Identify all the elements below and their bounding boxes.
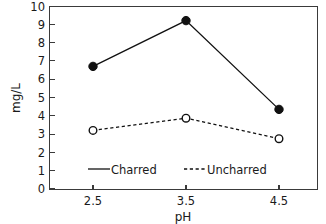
series-charred-line [93,21,279,110]
y-axis-ticks [50,7,55,190]
x-tick-label-1: 3.5 [177,194,195,208]
y-tick-label-10: 10 [30,0,45,14]
y-tick-label-2: 2 [38,146,45,160]
y-tick-label-5: 5 [38,91,45,105]
data-point-charred-1 [182,16,190,24]
y-tick-label-4: 4 [38,109,45,123]
series-uncharred [89,114,283,142]
legend-label-charred: Charred [111,163,157,177]
legend-item-charred: Charred [88,163,157,177]
x-axis-title: pH [175,210,192,224]
data-point-charred-0 [89,62,97,70]
y-tick-label-7: 7 [38,54,45,68]
x-axis-tick-labels: 2.5 3.5 4.5 [84,194,288,208]
series-charred [89,16,283,113]
x-tick-label-2: 4.5 [270,194,288,208]
data-point-charred-2 [275,105,283,113]
data-point-uncharred-1 [182,114,190,122]
y-tick-label-9: 9 [38,18,45,32]
plot-frame [50,7,318,190]
x-axis-ticks [93,185,279,190]
chart-figure: 0 1 2 3 4 5 6 7 8 9 10 2.5 3.5 4.5 pH mg… [0,0,326,224]
data-point-uncharred-0 [89,127,97,135]
chart-legend: Charred Uncharred [88,163,267,177]
y-tick-label-3: 3 [38,127,45,141]
y-axis-title: mg/L [9,83,23,113]
y-tick-label-1: 1 [38,164,45,178]
y-tick-label-0: 0 [38,182,45,196]
data-point-uncharred-2 [275,135,283,143]
line-chart: 0 1 2 3 4 5 6 7 8 9 10 2.5 3.5 4.5 pH mg… [0,0,326,224]
y-axis-tick-labels: 0 1 2 3 4 5 6 7 8 9 10 [30,0,45,196]
legend-label-uncharred: Uncharred [207,163,267,177]
legend-item-uncharred: Uncharred [184,163,267,177]
y-tick-label-8: 8 [38,36,45,50]
x-tick-label-0: 2.5 [84,194,102,208]
y-tick-label-6: 6 [38,72,45,86]
